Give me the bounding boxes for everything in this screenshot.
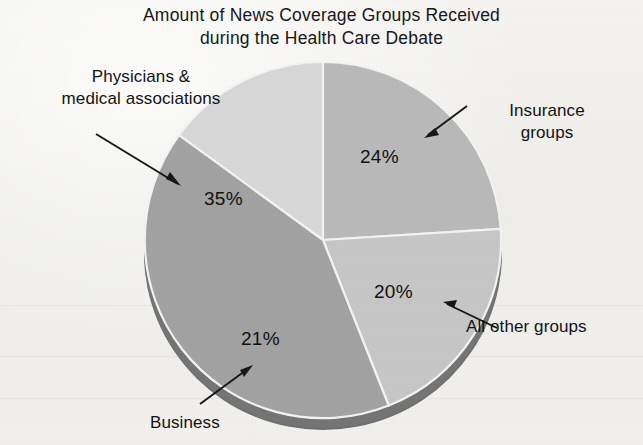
slice-value-insurance: 24% <box>360 146 399 168</box>
slice-value-all-other: 20% <box>374 281 413 303</box>
slice-value-physicians: 35% <box>204 188 243 210</box>
chart-page: Amount of News Coverage Groups Received … <box>0 0 643 445</box>
pie-slice-insurance[interactable] <box>323 62 501 240</box>
slice-label-all-other: All other groups <box>466 316 643 338</box>
pie-slices <box>145 62 501 418</box>
slice-label-physicians: Physicians & medical associations <box>28 66 254 110</box>
slice-value-business: 21% <box>241 328 280 350</box>
slice-label-insurance: Insurance groups <box>472 100 622 144</box>
slice-label-business: Business <box>150 412 290 434</box>
